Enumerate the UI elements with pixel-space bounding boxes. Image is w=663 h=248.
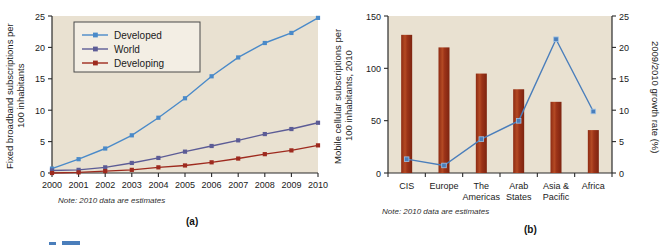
panel-b-y-tick-label-right: 25 [619,12,629,22]
panel-b-growth-point [591,109,596,114]
panel-a-data-point [50,171,54,175]
panel-a-y-tick-label: 25 [35,12,45,22]
panel-b-y-tick-label-left: 150 [366,12,381,22]
panel-b-bar [551,102,562,173]
panel-a-data-point [236,55,240,59]
panel-b-y-tick-label-left: 0 [376,169,381,179]
panel-a-x-tick-label: 2004 [148,180,168,190]
panel-a-letter: (a) [186,216,198,227]
panel-b-bar [476,74,487,173]
panel-a-y-tick-label: 20 [35,43,45,53]
panel-b-bar [513,89,524,173]
panel-a-legend-label: Developing [114,58,164,69]
panel-b-note: Note: 2010 data are estimates [382,207,489,216]
scan-artifact-dash [49,242,56,245]
panel-a-data-point [77,157,81,161]
panel-a-data-point [289,31,293,35]
panel-a-legend-swatch-marker [93,61,98,66]
panel-b-y-tick-label-right: 15 [619,74,629,84]
panel-a-data-point [130,161,134,165]
panel-a-data-point [130,133,134,137]
panel-b-growth-point [404,157,409,162]
panel-a-data-point [77,170,81,174]
panel-b-letter: (b) [524,224,537,235]
panel-a-data-point [289,148,293,152]
panel-b-growth-point [479,137,484,142]
panel-a-x-tick-label: 2007 [228,180,248,190]
panel-b-bar-chart: Mobile cellular subscriptions per 100 in… [330,0,663,248]
panel-b-plot: 0501001500510152025CISEuropeTheAmericasA… [330,0,663,200]
panel-b-y-tick-label-right: 10 [619,106,629,116]
panel-b-y-tick-label-right: 0 [619,169,624,179]
panel-a-data-point [103,165,107,169]
panel-a-data-point [183,163,187,167]
panel-a-data-point [316,121,320,125]
panel-a-data-point [236,156,240,160]
panel-a-x-tick-label: 2002 [95,180,115,190]
panel-b-category-label: Arab [509,181,528,191]
panel-a-data-point [210,144,214,148]
panel-b-category-label: CIS [399,181,414,191]
panel-b-category-label: Europe [429,181,458,191]
panel-a-data-point [103,146,107,150]
panel-a-data-point [289,127,293,131]
panel-b-category-label-line2: Americas [463,192,501,200]
panel-a-data-point [236,138,240,142]
panel-a-data-point [263,152,267,156]
panel-a-data-point [263,41,267,45]
panel-b-bar [588,130,599,173]
panel-b-category-label: The [474,181,490,191]
panel-a-x-tick-label: 2009 [281,180,301,190]
panel-a-legend-swatch-marker [93,33,98,38]
panel-b-y-tick-label-right: 5 [619,137,624,147]
panel-a-data-point [316,143,320,147]
panel-a-legend-swatch-marker [93,47,98,52]
figure-container: Fixed broadband subscriptions per 100 in… [0,0,663,248]
panel-a-y-tick-label: 5 [40,137,45,147]
panel-b-y-tick-label-right: 20 [619,43,629,53]
panel-a-data-point [103,169,107,173]
panel-a-y-tick-label: 0 [40,169,45,179]
panel-a-data-point [156,156,160,160]
panel-b-growth-point [554,37,559,42]
panel-a-y-tick-label: 10 [35,106,45,116]
panel-b-bar [439,47,450,173]
panel-a-data-point [210,74,214,78]
panel-b-category-label-line2: States [506,192,532,200]
panel-a-legend-label: World [114,44,140,55]
panel-b-category-label: Asia & [543,181,569,191]
panel-a-x-tick-label: 2008 [255,180,275,190]
panel-a-x-tick-label: 2006 [202,180,222,190]
panel-b-category-label-line2: Pacific [543,192,570,200]
panel-a-legend-label: Developed [114,30,162,41]
panel-b-growth-point [516,119,521,124]
panel-a-data-point [316,16,320,20]
panel-a-y-tick-label: 15 [35,74,45,84]
panel-a-data-point [130,168,134,172]
panel-a-plot: 0510152025200020012002200320042005200620… [0,0,330,200]
panel-a-data-point [156,165,160,169]
panel-a-data-point [156,116,160,120]
panel-b-bar [401,35,412,173]
panel-a-data-point [183,96,187,100]
panel-b-plot-background [388,16,612,173]
panel-a-x-tick-label: 2010 [308,180,328,190]
panel-b-y-tick-label-left: 100 [366,64,381,74]
panel-b-category-label: Africa [582,181,605,191]
scan-artifact-bar [62,241,80,245]
panel-a-line-chart: Fixed broadband subscriptions per 100 in… [0,0,330,248]
panel-a-data-point [183,150,187,154]
panel-a-note: Note: 2010 data are estimates [58,196,165,205]
panel-a-data-point [210,160,214,164]
panel-a-x-tick-label: 2000 [42,180,62,190]
panel-a-x-tick-label: 2001 [69,180,89,190]
panel-a-data-point [263,132,267,136]
panel-a-x-tick-label: 2003 [122,180,142,190]
panel-b-growth-point [442,163,447,168]
panel-a-x-tick-label: 2005 [175,180,195,190]
panel-b-y-axis-label-right: 2009/2010 growth rate (%) [647,14,661,180]
panel-b-y-tick-label-left: 50 [371,116,381,126]
